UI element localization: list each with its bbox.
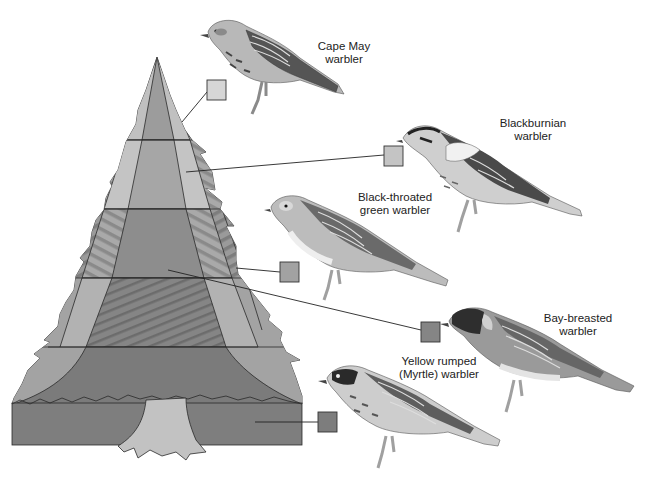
label-black-throated-green-warbler: Black-throated green warbler [345, 191, 445, 217]
label-cape-may-warbler: Cape May warbler [299, 40, 389, 66]
label-blackburnian-warbler: Blackburnian warbler [488, 117, 578, 143]
zone-box-black-throated-green [280, 262, 299, 282]
zone-box-bay-breasted [421, 322, 440, 342]
yellow-rumped-warbler-illustration [318, 366, 500, 468]
spruce-tree [0, 57, 320, 460]
warbler-zone-diagram: Cape May warbler Blackburnian warbler Bl… [0, 0, 645, 487]
zone-box-blackburnian [384, 146, 403, 166]
label-bay-breasted-warbler: Bay-breasted warbler [533, 312, 623, 338]
zone-box-yellow-rumped [318, 412, 337, 432]
zone-box-cape-may [207, 80, 226, 100]
label-yellow-rumped-warbler: Yellow rumped (Myrtle) warbler [384, 355, 494, 381]
